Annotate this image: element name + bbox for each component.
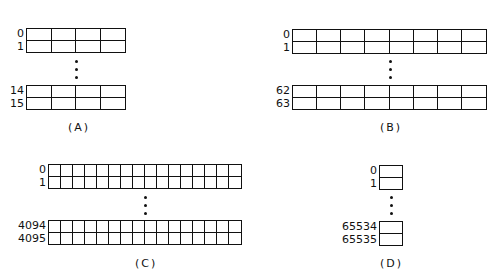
bit-cell [85,233,97,245]
row-address-label: 1 [370,178,377,190]
bit-cell [390,42,414,54]
bit-cell [73,177,85,189]
memory-grid-top [26,28,126,53]
bit-cell [317,98,341,110]
memory-grid-top [48,164,242,189]
bit-cell [205,221,217,233]
bit-cell [217,221,229,233]
ellipsis-vertical-icon [144,196,148,220]
bit-cell [390,30,414,42]
bit-cell [101,86,126,98]
bit-cell [293,42,317,54]
bit-cell [52,86,77,98]
memory-grid-top [379,165,403,190]
bit-cell [145,233,157,245]
bit-cell [380,178,402,190]
bit-cell [462,86,486,98]
ellipsis-vertical-icon [75,60,79,84]
bit-cell [438,30,462,42]
memory-grid-bottom [48,220,242,245]
bit-cell [76,41,101,53]
ellipsis-vertical-icon [389,60,393,84]
bit-cell [193,177,205,189]
bit-cell [52,41,77,53]
bit-cell [61,165,73,177]
bit-cell [169,221,181,233]
bit-cell [169,177,181,189]
bit-cell [97,177,109,189]
bit-cell [390,86,414,98]
bit-cell [317,86,341,98]
bit-cell [73,233,85,245]
bit-cell [27,41,52,53]
memory-grid-bottom [26,85,126,110]
bit-cell [157,221,169,233]
row-address-label: 0 [283,29,290,41]
bit-cell [85,177,97,189]
bit-cell [49,233,61,245]
bit-cell [438,42,462,54]
bit-cell [414,86,438,98]
bit-cell [169,233,181,245]
bit-cell [121,221,133,233]
bit-cell [293,98,317,110]
bit-cell [101,29,126,41]
bit-cell [380,166,402,178]
row-address-label: 1 [283,42,290,54]
bit-cell [181,233,193,245]
bit-cell [85,221,97,233]
bit-cell [229,233,241,245]
bit-cell [101,98,126,110]
bit-cell [365,30,389,42]
bit-cell [97,165,109,177]
row-address-label: 62 [276,85,290,97]
bit-cell [205,165,217,177]
bit-cell [181,177,193,189]
bit-cell [169,165,181,177]
bit-cell [73,221,85,233]
row-address-label: 14 [10,85,24,97]
bit-cell [181,165,193,177]
figure-caption: (B) [380,121,402,134]
bit-cell [317,42,341,54]
row-address-label: 0 [39,164,46,176]
bit-cell [61,221,73,233]
bit-cell [133,177,145,189]
bit-cell [27,98,52,110]
bit-cell [85,165,97,177]
bit-cell [341,98,365,110]
bit-cell [145,221,157,233]
row-address-label: 0 [17,28,24,40]
figure-caption: (A) [68,121,90,134]
bit-cell [293,30,317,42]
bit-cell [27,86,52,98]
bit-cell [97,221,109,233]
row-address-label: 4095 [18,233,46,245]
bit-cell [341,86,365,98]
ellipsis-vertical-icon [390,196,394,220]
bit-cell [229,177,241,189]
bit-cell [27,29,52,41]
bit-cell [133,221,145,233]
bit-cell [390,98,414,110]
bit-cell [49,221,61,233]
row-address-label: 15 [10,98,24,110]
row-address-label: 1 [17,41,24,53]
bit-cell [121,165,133,177]
bit-cell [193,233,205,245]
bit-cell [145,165,157,177]
bit-cell [76,86,101,98]
row-address-label: 65534 [342,221,377,233]
bit-cell [52,29,77,41]
row-address-label: 65535 [342,234,377,246]
bit-cell [109,165,121,177]
bit-cell [293,86,317,98]
figure-caption: (C) [135,257,157,270]
row-address-label: 63 [276,98,290,110]
bit-cell [76,29,101,41]
bit-cell [61,233,73,245]
bit-cell [217,177,229,189]
bit-cell [73,165,85,177]
bit-cell [438,98,462,110]
bit-cell [438,86,462,98]
